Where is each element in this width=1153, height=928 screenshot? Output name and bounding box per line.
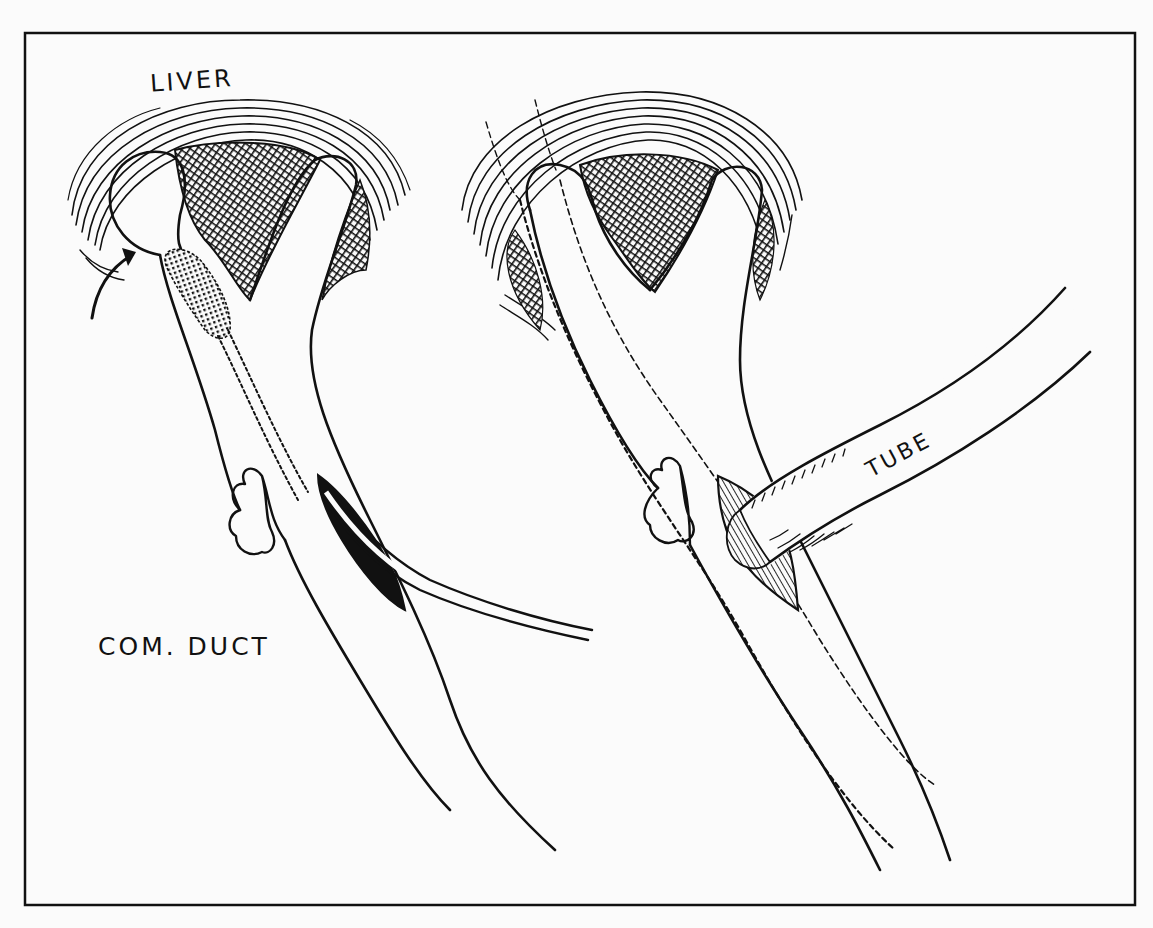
liver-shadow-lateral-2 [753,200,774,300]
dashed-line-left [520,200,895,850]
cystic-stump-right [644,458,693,545]
dilator [165,249,230,338]
liver-shadow-right-left [322,180,370,300]
dilator-stem [218,330,308,500]
right-panel [462,92,1090,870]
left-panel [68,100,592,850]
label-common-duct: COM. DUCT [98,632,270,661]
inserted-tube [730,288,1090,566]
arrow-icon [92,255,132,318]
label-liver: LIVER [149,64,234,98]
cystic-stump-left [230,469,285,554]
arrow-head [122,248,136,266]
illustration: LIVER COM. DUCT TUBE [0,0,1153,928]
